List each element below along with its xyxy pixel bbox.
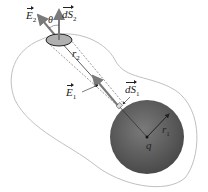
label-theta: θ [48,15,53,25]
label-e2: E2 [26,10,36,24]
gauss-diagram [0,0,208,192]
e1-arrow [93,76,120,108]
label-q: q [146,140,152,151]
label-ds2: dS2 [62,9,77,23]
label-r2: r2 [72,48,80,62]
label-r1: r1 [162,124,170,138]
label-e1: E1 [66,87,76,101]
label-ds1: dS1 [125,84,140,98]
